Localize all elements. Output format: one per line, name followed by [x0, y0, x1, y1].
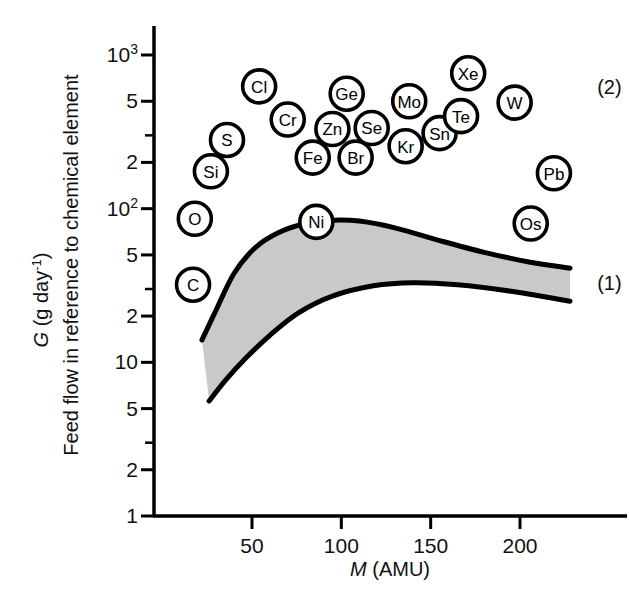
element-marker-pb[interactable]: Pb [537, 157, 570, 190]
marker-label: Ge [335, 85, 358, 104]
element-marker-o[interactable]: O [178, 202, 211, 235]
marker-label: S [221, 131, 232, 150]
x-tick-label-100: 100 [324, 534, 359, 557]
element-marker-si[interactable]: Si [194, 155, 227, 188]
marker-label: Br [347, 149, 364, 168]
annotation-2: (2) [597, 76, 621, 98]
y-tick-label-200: 2 [126, 150, 138, 173]
element-marker-mo[interactable]: Mo [393, 85, 426, 118]
element-marker-ge[interactable]: Ge [330, 77, 363, 110]
x-tick-label-150: 150 [413, 534, 448, 557]
marker-label: Fe [303, 149, 323, 168]
marker-label: Ni [308, 213, 324, 232]
element-marker-c[interactable]: C [177, 268, 210, 301]
marker-label: O [188, 210, 201, 229]
element-marker-os[interactable]: Os [514, 207, 547, 240]
y-tick-label-1: 1 [126, 504, 138, 527]
marker-label: Se [361, 119, 382, 138]
y-axis-title: Feed flow in reference to chemical eleme… [60, 74, 82, 456]
x-tick-label-200: 200 [502, 534, 537, 557]
y-tick-label-2: 2 [126, 458, 138, 481]
marker-label: W [507, 94, 523, 113]
y-tick-label-50: 5 [126, 243, 138, 266]
element-marker-cl[interactable]: Cl [243, 70, 276, 103]
y-tick-label-10: 10 [115, 350, 138, 373]
element-marker-xe[interactable]: Xe [452, 57, 485, 90]
annotation-1: (1) [597, 272, 621, 294]
marker-label: Mo [397, 93, 421, 112]
x-axis-title-symbol: M [350, 558, 367, 580]
element-marker-te[interactable]: Te [445, 100, 478, 133]
x-axis-title: M (AMU) [350, 558, 430, 580]
marker-label: C [187, 276, 199, 295]
element-marker-se[interactable]: Se [355, 111, 388, 144]
element-marker-s[interactable]: S [210, 123, 243, 156]
y-tick-label-20: 2 [126, 304, 138, 327]
marker-label: Si [203, 163, 218, 182]
element-marker-fe[interactable]: Fe [296, 141, 329, 174]
marker-label: Cr [279, 111, 297, 130]
y-tick-label-5: 5 [126, 397, 138, 420]
marker-label: Cl [251, 78, 267, 97]
marker-label: Xe [458, 65, 479, 84]
element-marker-kr[interactable]: Kr [389, 130, 422, 163]
y-tick-label-500: 5 [126, 89, 138, 112]
element-marker-ni[interactable]: Ni [300, 205, 333, 238]
marker-label: Zn [322, 120, 342, 139]
element-marker-cr[interactable]: Cr [271, 103, 304, 136]
element-marker-w[interactable]: W [498, 86, 531, 119]
chart-canvas: 103521025210521 50100150200 COSiSClCrFeN… [0, 0, 629, 599]
marker-label: Te [452, 108, 470, 127]
element-marker-zn[interactable]: Zn [316, 112, 349, 145]
element-marker-br[interactable]: Br [339, 141, 372, 174]
marker-label: Pb [544, 165, 565, 184]
marker-label: Kr [397, 138, 414, 157]
x-tick-label-50: 50 [240, 534, 263, 557]
figure-container: 103521025210521 50100150200 COSiSClCrFeN… [0, 0, 629, 599]
marker-label: Os [520, 215, 542, 234]
